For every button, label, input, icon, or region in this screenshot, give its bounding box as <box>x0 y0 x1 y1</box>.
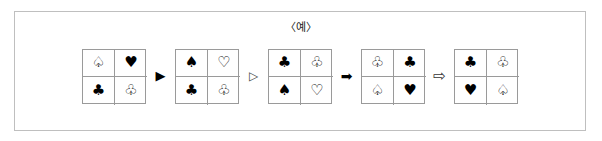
grid-1-cell-bottom-left: ♣ <box>83 77 115 105</box>
club-filled-icon: ♣ <box>92 83 105 98</box>
hollow-triangle-right-icon: ▷ <box>239 69 268 83</box>
grid-2-cell-top-right: ♡ <box>208 50 240 78</box>
grid-3-cell-top-left: ♣ <box>269 50 301 78</box>
transformation-sequence: ♤ ♥ ♣ ♧ ▶ ♠ ♡ ♣ ♧ ▷ ♣ ♧ ♠ ♡ ➡ ♧ ♣ ♤ ♥ ⇨ <box>14 44 586 108</box>
grid-3-cell-bottom-left: ♠ <box>269 77 301 105</box>
grid-4: ♧ ♣ ♤ ♥ <box>361 49 425 104</box>
grid-3: ♣ ♧ ♠ ♡ <box>268 49 332 104</box>
grid-1: ♤ ♥ ♣ ♧ <box>82 49 146 104</box>
grid-3-cell-top-right: ♧ <box>301 50 333 78</box>
solid-arrow-right-icon: ➡ <box>332 69 361 83</box>
grid-5-cell-bottom-right: ♤ <box>487 77 519 105</box>
grid-2-cell-bottom-left: ♣ <box>176 77 208 105</box>
grid-2: ♠ ♡ ♣ ♧ <box>175 49 239 104</box>
club-outline-icon: ♧ <box>310 55 323 70</box>
grid-5-cell-bottom-left: ♥ <box>455 77 487 105</box>
spade-outline-icon: ♤ <box>496 83 509 98</box>
heart-filled-icon: ♥ <box>464 83 477 98</box>
spade-outline-icon: ♤ <box>371 83 384 98</box>
heart-outline-icon: ♡ <box>310 83 323 98</box>
diagram-root: 〈예〉 ♤ ♥ ♣ ♧ ▶ ♠ ♡ ♣ ♧ ▷ ♣ ♧ ♠ ♡ ➡ ♧ ♣ ♤ … <box>0 0 602 141</box>
hollow-arrow-right-icon: ⇨ <box>425 69 454 83</box>
grid-4-cell-top-left: ♧ <box>362 50 394 78</box>
club-outline-icon: ♧ <box>371 55 384 70</box>
heart-outline-icon: ♡ <box>217 55 230 70</box>
heart-filled-icon: ♥ <box>403 83 416 98</box>
grid-2-cell-top-left: ♠ <box>176 50 208 78</box>
grid-4-cell-top-right: ♣ <box>394 50 426 78</box>
grid-3-cell-bottom-right: ♡ <box>301 77 333 105</box>
spade-filled-icon: ♠ <box>185 55 198 70</box>
grid-2-cell-bottom-right: ♧ <box>208 77 240 105</box>
spade-outline-icon: ♤ <box>92 55 105 70</box>
example-caption: 〈예〉 <box>0 21 602 34</box>
grid-1-cell-top-right: ♥ <box>115 50 147 78</box>
grid-5-cell-top-left: ♣ <box>455 50 487 78</box>
solid-triangle-right-icon: ▶ <box>146 69 175 83</box>
grid-5-cell-top-right: ♧ <box>487 50 519 78</box>
club-filled-icon: ♣ <box>185 83 198 98</box>
club-filled-icon: ♣ <box>403 55 416 70</box>
grid-1-cell-bottom-right: ♧ <box>115 77 147 105</box>
grid-1-cell-top-left: ♤ <box>83 50 115 78</box>
club-outline-icon: ♧ <box>124 83 137 98</box>
grid-4-cell-bottom-left: ♤ <box>362 77 394 105</box>
spade-filled-icon: ♠ <box>278 83 291 98</box>
grid-5: ♣ ♧ ♥ ♤ <box>454 49 518 104</box>
club-outline-icon: ♧ <box>496 55 509 70</box>
club-filled-icon: ♣ <box>464 55 477 70</box>
club-filled-icon: ♣ <box>278 55 291 70</box>
heart-filled-icon: ♥ <box>124 55 137 70</box>
club-outline-icon: ♧ <box>217 83 230 98</box>
grid-4-cell-bottom-right: ♥ <box>394 77 426 105</box>
